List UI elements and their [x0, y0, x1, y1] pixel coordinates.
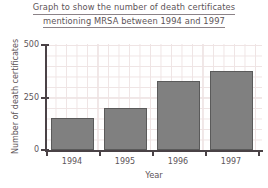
- bar-1995: [104, 108, 147, 150]
- x-label-1996: 1996: [156, 157, 200, 166]
- chart-title: Graph to show the number of death certif…: [0, 2, 268, 28]
- x-axis-title: Year: [45, 170, 263, 180]
- x-tick-3: [205, 150, 207, 156]
- bar-1994: [51, 118, 94, 150]
- y-tick-500: [41, 44, 49, 46]
- bar-1997: [210, 71, 253, 151]
- bar-1996: [157, 81, 200, 150]
- x-tick-0: [46, 150, 48, 156]
- chart-title-line-1: Graph to show the number of death certif…: [33, 2, 235, 15]
- chart-page: Graph to show the number of death certif…: [0, 0, 268, 188]
- x-label-1997: 1997: [209, 157, 253, 166]
- chart-title-line-2: mentioning MRSA between 1994 and 1997: [43, 16, 225, 29]
- x-tick-1: [99, 150, 101, 156]
- paper-mask-right: [262, 0, 268, 188]
- x-label-1995: 1995: [103, 157, 147, 166]
- y-axis-title: Number of death certificates: [11, 37, 20, 157]
- x-axis-line: [45, 150, 263, 152]
- y-tick-250: [41, 97, 49, 99]
- x-tick-2: [152, 150, 154, 156]
- x-label-1994: 1994: [50, 157, 94, 166]
- x-tick-4: [258, 150, 260, 156]
